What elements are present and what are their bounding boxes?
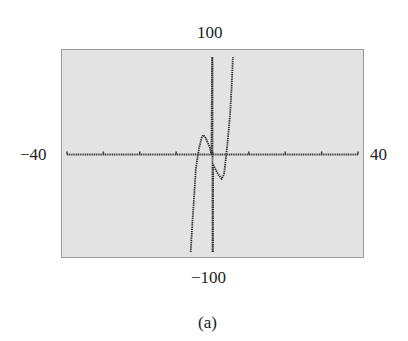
x-max-label: 40 [370, 146, 387, 163]
x-min-label: −40 [20, 146, 47, 163]
y-max-label: 100 [197, 24, 223, 41]
y-min-label: −100 [191, 269, 226, 286]
figure-caption: (a) [198, 314, 217, 331]
plot-area [61, 49, 364, 258]
